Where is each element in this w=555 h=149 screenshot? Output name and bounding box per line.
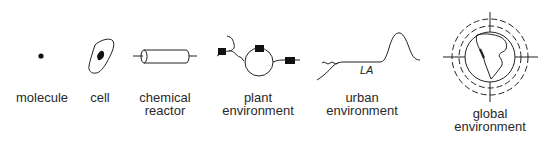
label-urban-environment: urban environment bbox=[322, 91, 402, 117]
la-annotation: LA bbox=[360, 64, 373, 76]
label-global-environment: global environment bbox=[450, 107, 530, 133]
label-plant-environment: plant environment bbox=[218, 91, 298, 117]
globe-icon bbox=[443, 12, 538, 102]
cell-icon bbox=[89, 39, 114, 73]
terrain-profile-icon: LA bbox=[317, 33, 420, 80]
label-molecule: molecule bbox=[8, 91, 76, 104]
cylinder-reactor-icon bbox=[133, 50, 197, 63]
label-cell: cell bbox=[80, 91, 120, 104]
dot-icon bbox=[38, 53, 43, 58]
plant-network-icon bbox=[217, 36, 300, 76]
label-chemical-reactor: chemical reactor bbox=[130, 91, 200, 117]
